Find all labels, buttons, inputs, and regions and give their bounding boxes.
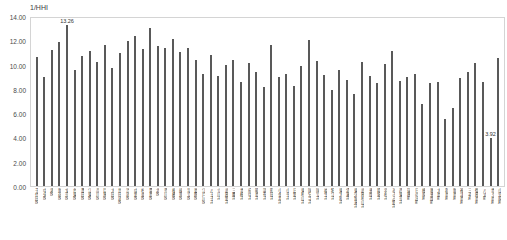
bar bbox=[361, 62, 363, 186]
x-label-slot: 清瀬市 bbox=[343, 188, 351, 240]
x-tick-label: 大島町 bbox=[436, 188, 440, 200]
bar-slot bbox=[116, 18, 124, 186]
x-label-slot: 豊島区 bbox=[146, 188, 154, 240]
bar bbox=[232, 60, 234, 186]
x-label-slot: 板橋区 bbox=[169, 188, 177, 240]
x-label-slot: 府中市 bbox=[245, 188, 253, 240]
x-tick-label: 江東区 bbox=[87, 188, 91, 200]
y-tick-label: 14.00 bbox=[0, 14, 26, 21]
bar-slot bbox=[366, 18, 374, 186]
bar-slot bbox=[245, 18, 253, 186]
bar-slot bbox=[41, 18, 49, 186]
x-label-slot: 小金井市 bbox=[275, 188, 283, 240]
x-tick-label: 御蔵島村 bbox=[474, 188, 478, 204]
x-tick-label: 目黒区 bbox=[102, 188, 106, 200]
x-label-slot: 三鷹市 bbox=[229, 188, 237, 240]
x-label-slot: 瑞穂町 bbox=[404, 188, 412, 240]
bar-slot bbox=[109, 18, 117, 186]
bar bbox=[399, 81, 401, 186]
y-tick-label: 0.00 bbox=[0, 184, 26, 191]
bar-slot bbox=[434, 18, 442, 186]
x-tick-label: 新島村 bbox=[451, 188, 455, 200]
x-label-slot: 大島町 bbox=[434, 188, 442, 240]
bar-slot bbox=[320, 18, 328, 186]
bar-slot bbox=[71, 18, 79, 186]
x-tick-label: 清瀬市 bbox=[345, 188, 349, 200]
x-tick-label: 稲城市 bbox=[375, 188, 379, 200]
bar bbox=[210, 55, 212, 186]
x-tick-label: 練馬区 bbox=[178, 188, 182, 200]
x-label-slot: 渋谷区 bbox=[123, 188, 131, 240]
bar bbox=[285, 74, 287, 186]
x-tick-label: 渋谷区 bbox=[125, 188, 129, 200]
bar bbox=[104, 45, 106, 186]
bar bbox=[142, 49, 144, 186]
bar bbox=[376, 83, 378, 186]
bar-slot bbox=[139, 18, 147, 186]
x-label-slot: 稲城市 bbox=[374, 188, 382, 240]
x-label-slot: 墨田区 bbox=[78, 188, 86, 240]
y-tick-label: 12.00 bbox=[0, 38, 26, 45]
bar-slot bbox=[177, 18, 185, 186]
bar bbox=[300, 66, 302, 186]
bar-slot bbox=[56, 18, 64, 186]
x-label-slot: 調布市 bbox=[260, 188, 268, 240]
bar bbox=[119, 53, 121, 186]
x-tick-label: 三宅村 bbox=[466, 188, 470, 200]
bar bbox=[43, 77, 45, 186]
x-tick-label: 檜原村 bbox=[421, 188, 425, 200]
y-tick-label: 6.00 bbox=[0, 111, 26, 118]
x-label-slot: 東大和市 bbox=[336, 188, 344, 240]
x-tick-label: 西東京市 bbox=[398, 188, 402, 204]
bar bbox=[149, 28, 151, 186]
bar bbox=[74, 70, 76, 186]
bar bbox=[437, 82, 439, 186]
bar-slot bbox=[184, 18, 192, 186]
x-tick-label: あきる野市 bbox=[391, 188, 395, 208]
bar bbox=[467, 72, 469, 186]
x-label-slot: あきる野市 bbox=[389, 188, 397, 240]
x-tick-label: 羽村市 bbox=[383, 188, 387, 200]
x-tick-label: 北区 bbox=[155, 188, 159, 196]
x-label-slot: 中野区 bbox=[131, 188, 139, 240]
x-tick-label: 小金井市 bbox=[277, 188, 281, 204]
x-label-slot: 葛飾区 bbox=[191, 188, 199, 240]
bar bbox=[444, 119, 446, 186]
x-tick-label: 瑞穂町 bbox=[406, 188, 410, 200]
x-tick-label: 品川区 bbox=[94, 188, 98, 200]
bar bbox=[391, 51, 393, 186]
x-tick-label: 多摩市 bbox=[368, 188, 372, 200]
bar-slot bbox=[419, 18, 427, 186]
bar-slot bbox=[169, 18, 177, 186]
x-label-slot: 練馬区 bbox=[176, 188, 184, 240]
x-tick-label: 中央区 bbox=[41, 188, 45, 200]
y-axis-ticks: 14.0012.0010.008.006.004.002.000.00 bbox=[0, 0, 30, 240]
x-tick-label: 板橋区 bbox=[170, 188, 174, 200]
y-tick-label: 8.00 bbox=[0, 86, 26, 93]
bar-slot bbox=[192, 18, 200, 186]
x-label-slot: 神津島村 bbox=[457, 188, 465, 240]
x-label-slot: 小平市 bbox=[283, 188, 291, 240]
x-tick-label: 世田谷区 bbox=[117, 188, 121, 204]
y-axis-title: 1/HHI bbox=[30, 4, 48, 11]
x-tick-label: 葛飾区 bbox=[193, 188, 197, 200]
bar bbox=[81, 56, 83, 186]
bar bbox=[164, 48, 166, 186]
x-label-slot: 福生市 bbox=[321, 188, 329, 240]
bar bbox=[263, 87, 265, 186]
bar bbox=[187, 48, 189, 186]
bar-series: 13.263.92 bbox=[31, 18, 504, 186]
bar-slot bbox=[373, 18, 381, 186]
x-label-slot: 国分寺市 bbox=[305, 188, 313, 240]
x-tick-label: 町田市 bbox=[269, 188, 273, 200]
x-label-slot: 三宅村 bbox=[465, 188, 473, 240]
bar bbox=[248, 63, 250, 186]
bar bbox=[157, 46, 159, 186]
bar-slot bbox=[388, 18, 396, 186]
y-tick-label: 4.00 bbox=[0, 135, 26, 142]
bar bbox=[134, 36, 136, 186]
x-label-slot: 目黒区 bbox=[100, 188, 108, 240]
bar bbox=[490, 138, 492, 186]
x-tick-label: 国分寺市 bbox=[307, 188, 311, 204]
bar-slot bbox=[230, 18, 238, 186]
